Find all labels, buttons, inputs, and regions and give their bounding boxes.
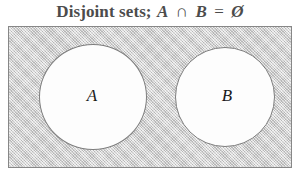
figure-title: Disjoint sets; A ∩ B = Ø [0,1,300,22]
equals-symbol: = [212,2,226,21]
venn-diagram-figure: Disjoint sets; A ∩ B = Ø A B [0,0,300,171]
set-label-b: B [222,86,232,106]
empty-set-symbol: Ø [230,2,243,21]
title-set-a: A [156,2,169,21]
title-set-b: B [194,2,207,21]
set-circle-b: B [175,47,275,147]
intersection-symbol: ∩ [174,2,190,21]
title-lead-text: Disjoint sets; [56,2,151,21]
set-label-a: A [87,86,97,106]
universal-set-rectangle: A B [8,26,292,168]
set-circle-a: A [39,44,147,150]
